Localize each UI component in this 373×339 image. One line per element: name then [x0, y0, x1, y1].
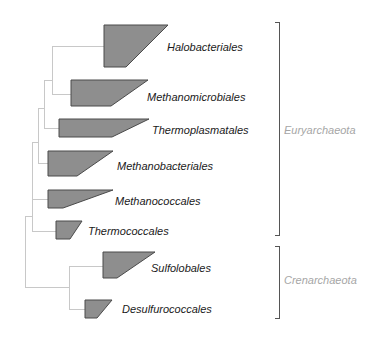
group-label-crenarchaeota: Crenarchaeota [284, 274, 357, 286]
tree-branch [52, 46, 71, 94]
clade-wedge-halobacteriales [104, 25, 168, 67]
taxon-label-thermoplasmatales: Thermoplasmatales [152, 124, 249, 136]
clade-wedge-thermoplasmatales [59, 119, 149, 137]
clade-wedge-methanococcales [48, 190, 113, 208]
tree-branch [32, 142, 48, 199]
clade-wedge-desulfurococcales [85, 300, 112, 318]
taxon-label-sulfolobales: Sulfolobales [151, 262, 211, 274]
group-bracket-euryarchaeota [275, 22, 279, 235]
group-label-euryarchaeota: Euryarchaeota [284, 124, 356, 136]
clade-wedge-thermococcales [56, 221, 82, 239]
clade-wedge-methanomicrobiales [71, 80, 148, 106]
tree-branch [69, 266, 85, 309]
taxon-label-methanomicrobiales: Methanomicrobiales [147, 91, 246, 103]
taxon-label-halobacteriales: Halobacteriales [167, 41, 243, 53]
phylogenetic-tree: HalobacterialesMethanomicrobialesThermop… [0, 0, 373, 339]
taxon-label-thermococcales: Thermococcales [88, 225, 169, 237]
group-brackets: EuryarchaeotaCrenarchaeota [275, 22, 357, 318]
group-bracket-crenarchaeota [275, 246, 279, 318]
taxon-label-methanococcales: Methanococcales [115, 195, 201, 207]
tree-branch [38, 108, 48, 163]
taxon-label-desulfurococcales: Desulfurococcales [122, 303, 212, 315]
clade-wedge-methanobacteriales [48, 151, 113, 176]
taxon-label-methanobacteriales: Methanobacteriales [117, 160, 214, 172]
clade-wedge-sulfolobales [103, 252, 155, 278]
